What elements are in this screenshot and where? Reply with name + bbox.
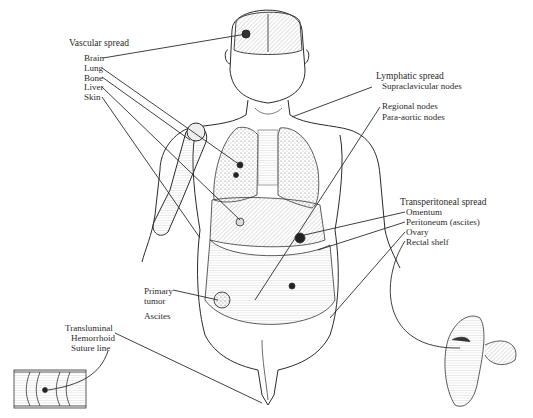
label-suture-line: Suture line [71,343,110,353]
label-rectal-shelf: Rectal shelf [406,237,449,247]
lymphatic-spread-heading: Lymphatic spread [376,71,444,81]
leader-ovary [330,232,405,318]
vascular-spread-heading: Vascular spread [69,38,129,48]
leader-peritoneum [318,222,405,250]
label-liver: Liver [84,82,104,92]
transperitoneal-spread-heading: Transperitoneal spread [400,197,486,207]
label-para-aortic-nodes: Para-aortic nodes [382,112,445,122]
lungs [214,127,319,208]
label-skin: Skin [84,92,101,102]
label-lung: Lung [84,63,103,73]
label-hemorrhoid: Hemorrhoid [71,333,115,343]
label-tumor: tumor [144,296,166,306]
label-brain: Brain [84,53,104,63]
intestine-inset [14,370,86,408]
label-primary: Primary [144,286,173,296]
head [225,10,309,103]
diagram-canvas: Vascular spread Brain Lung Bone Liver Sk… [0,0,533,418]
label-ovary: Ovary [406,227,429,237]
leader-supraclavicular [292,87,372,117]
leader-lung [102,68,240,165]
anatomy-illustration [0,0,533,418]
label-transluminal: Transluminal [65,323,113,333]
rectal-shelf-inset [445,316,516,406]
leader-rectal-shelf [390,241,460,348]
abdomen-organs [205,198,335,400]
leader-transluminal [115,333,262,403]
label-peritoneum-ascites: Peritoneum (ascites) [406,217,480,227]
label-regional-nodes: Regional nodes [382,101,438,111]
label-omentum: Omentum [406,207,442,217]
leader-bone [102,77,190,140]
label-supraclavicular-nodes: Supraclavicular nodes [382,81,462,91]
label-ascites: Ascites [144,311,171,321]
